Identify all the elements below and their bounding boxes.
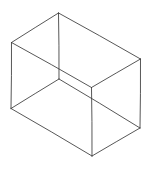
bottom-front-right-edge xyxy=(92,128,140,156)
bottom-front-left-edge xyxy=(11,109,92,157)
right-vertical-edge xyxy=(140,59,141,128)
top-front-left-edge xyxy=(12,43,92,88)
back-vertical-edge xyxy=(59,13,60,79)
wireframe-box-drawing xyxy=(0,0,152,170)
top-front-right-edge xyxy=(92,59,141,88)
front-vertical-edge xyxy=(92,88,93,157)
cuboid-sketch-canvas xyxy=(0,0,152,170)
top-right-edge xyxy=(59,13,141,59)
top-left-edge xyxy=(12,13,59,43)
bottom-back-left-edge xyxy=(11,79,59,109)
bottom-back-right-edge xyxy=(59,79,140,128)
left-vertical-edge xyxy=(11,43,12,109)
